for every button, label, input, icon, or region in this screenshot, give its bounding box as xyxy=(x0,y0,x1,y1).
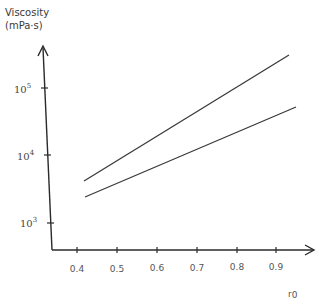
x-tick-label: 0.7 xyxy=(190,263,204,273)
y-tick-label-1e4: 104 xyxy=(17,149,35,162)
x-axis-title: r0 xyxy=(288,289,298,300)
y-tick-label-1e5: 105 xyxy=(14,82,31,95)
x-tick-labels: 0.4 0.5 0.6 0.7 0.8 0.9 xyxy=(70,262,284,274)
y-tick-labels: 105 104 103 xyxy=(14,82,37,229)
y-axis-line xyxy=(43,48,52,250)
series-line-upper xyxy=(84,55,289,181)
x-tick-label: 0.6 xyxy=(150,263,165,273)
x-tick-label: 0.8 xyxy=(230,262,245,272)
x-tick-label: 0.5 xyxy=(110,264,124,274)
x-tick-label: 0.9 xyxy=(269,262,284,272)
y-tick-label-1e3: 103 xyxy=(20,216,37,229)
y-ticks xyxy=(41,88,54,223)
series-line-lower xyxy=(85,107,296,197)
chart-canvas: 105 104 103 0.4 0.5 0.6 0.7 0.8 0.9 r0 xyxy=(0,0,321,306)
x-tick-label: 0.4 xyxy=(70,264,85,274)
